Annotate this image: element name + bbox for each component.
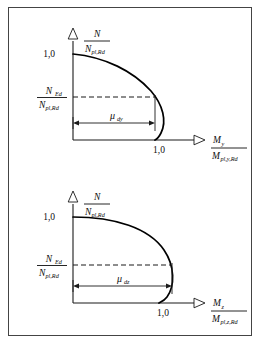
level-denominator-sub: pl,Rd <box>45 272 60 279</box>
dimension-symbol: μ <box>109 110 115 121</box>
x-axis-tick-label: 1,0 <box>157 308 169 318</box>
x-axis-arrowhead-icon <box>194 135 205 145</box>
y-axis-tick-label: 1,0 <box>43 212 55 222</box>
chart-minor-axis-svg: N N pl,Rd 1,0 N Ed N pl,Rd μ dz 1,0 M z … <box>9 172 253 336</box>
dimension-arrow-left-icon <box>73 284 79 289</box>
dimension-subscript: dy <box>117 115 123 122</box>
x-axis-denominator-sub: pl,y,Rd <box>220 155 239 162</box>
interaction-curve <box>73 54 164 140</box>
level-numerator-base: N <box>45 86 53 96</box>
level-numerator-base: N <box>45 254 53 264</box>
y-axis-arrowhead-icon <box>68 28 78 39</box>
chart-major-axis: N N pl,Rd 1,0 N Ed N pl,Rd μ dy 1,0 M y … <box>9 9 253 173</box>
x-axis-denominator-sub: pl,z,Rd <box>220 318 239 325</box>
dimension-arrow-right-icon <box>149 121 155 126</box>
dimension-arrow-left-icon <box>73 121 79 126</box>
x-axis-arrowhead-icon <box>194 298 205 308</box>
level-numerator-sub: Ed <box>54 90 63 97</box>
x-axis-numerator-base: M <box>212 135 222 145</box>
y-axis-tick-label: 1,0 <box>43 49 55 59</box>
y-axis-arrowhead-icon <box>68 191 78 202</box>
chart-minor-axis: N N pl,Rd 1,0 N Ed N pl,Rd μ dz 1,0 M z … <box>9 172 253 336</box>
level-numerator-sub: Ed <box>54 258 63 265</box>
x-axis-tick-label: 1,0 <box>153 145 165 155</box>
level-denominator-sub: pl,Rd <box>45 104 60 111</box>
dimension-symbol: μ <box>116 273 122 284</box>
x-axis-numerator-base: M <box>212 298 222 308</box>
x-axis-numerator-sub: y <box>221 140 225 147</box>
chart-major-axis-svg: N N pl,Rd 1,0 N Ed N pl,Rd μ dy 1,0 M y … <box>9 9 253 173</box>
y-axis-denominator-sub: pl,Rd <box>91 48 106 55</box>
x-axis-denominator-base: M <box>211 151 221 161</box>
y-axis-numerator: N <box>93 192 101 202</box>
y-axis-numerator: N <box>93 29 101 39</box>
interaction-curve <box>73 217 173 303</box>
y-axis-denominator-sub: pl,Rd <box>91 211 106 218</box>
dimension-subscript: dz <box>124 278 130 285</box>
x-axis-denominator-base: M <box>211 314 221 324</box>
x-axis-numerator-sub: z <box>221 303 225 310</box>
figure-frame: N N pl,Rd 1,0 N Ed N pl,Rd μ dy 1,0 M y … <box>8 7 252 336</box>
